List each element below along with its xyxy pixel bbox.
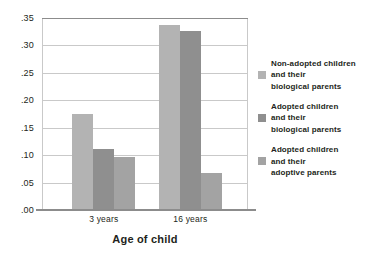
chart-legend: Non-adopted children and their biologica… — [258, 58, 368, 187]
bar-group — [72, 18, 135, 210]
y-tick-label: .30 — [21, 40, 34, 50]
legend-swatch — [258, 114, 266, 122]
x-axis-baseline — [36, 209, 256, 211]
legend-swatch — [258, 157, 266, 165]
legend-entry: Adopted children and their adoptive pare… — [258, 144, 368, 178]
bar — [93, 149, 114, 210]
bar — [180, 31, 201, 210]
bars-layer — [42, 18, 248, 210]
x-axis-title: Age of child — [42, 233, 248, 245]
y-tick-label: .15 — [21, 123, 34, 133]
bar-chart-figure: .00.05.10.15.20.25.30.35 3 years16 years… — [0, 0, 368, 261]
bar — [159, 25, 180, 210]
x-tick-label: 3 years — [89, 214, 118, 224]
legend-label: Adopted children and their biological pa… — [271, 101, 341, 135]
legend-label: Non-adopted children and their biologica… — [271, 58, 356, 92]
legend-entry: Adopted children and their biological pa… — [258, 101, 368, 135]
bar-group — [159, 18, 222, 210]
x-tick-label: 16 years — [173, 214, 207, 224]
bar — [114, 157, 135, 210]
y-tick-label: .05 — [21, 178, 34, 188]
legend-entry: Non-adopted children and their biologica… — [258, 58, 368, 92]
y-axis: .00.05.10.15.20.25.30.35 — [0, 18, 38, 210]
y-tick-label: .35 — [21, 13, 34, 23]
y-tick-label: .20 — [21, 95, 34, 105]
y-tick-label: .10 — [21, 150, 34, 160]
y-tick-label: .00 — [21, 205, 34, 215]
plot-area — [42, 18, 248, 210]
legend-label: Adopted children and their adoptive pare… — [271, 144, 338, 178]
bar — [201, 173, 222, 210]
x-axis: 3 years16 years — [42, 214, 248, 228]
y-tick-label: .25 — [21, 68, 34, 78]
legend-swatch — [258, 71, 266, 79]
bar — [72, 114, 93, 210]
